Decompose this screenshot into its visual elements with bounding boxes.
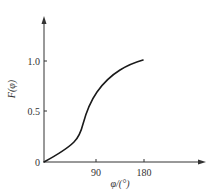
y-tick-label-0.5: 0.5 (28, 106, 41, 117)
origin-label: 0 (35, 157, 40, 168)
chart: 1.0 0.5 0 90 180 φ/(°) F(φ) (0, 0, 211, 192)
x-axis-arrow-icon (198, 160, 206, 165)
y-axis-arrow-icon (42, 16, 47, 24)
cdf-curve (44, 60, 143, 162)
x-axis-label: φ/(°) (111, 178, 131, 190)
y-tick-label-1: 1.0 (28, 56, 41, 67)
y-axis-label: F(φ) (6, 79, 18, 99)
x-tick-label-180: 180 (137, 167, 152, 178)
x-tick-label-90: 90 (91, 167, 101, 178)
